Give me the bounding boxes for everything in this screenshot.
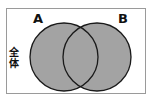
universe-label-char-2: 体 — [9, 57, 20, 69]
universe-label-char-1: 全 — [8, 46, 20, 58]
venn-diagram: A B 全 体 — [0, 0, 149, 99]
set-b-label: B — [118, 11, 128, 26]
set-a-label: A — [33, 11, 43, 26]
